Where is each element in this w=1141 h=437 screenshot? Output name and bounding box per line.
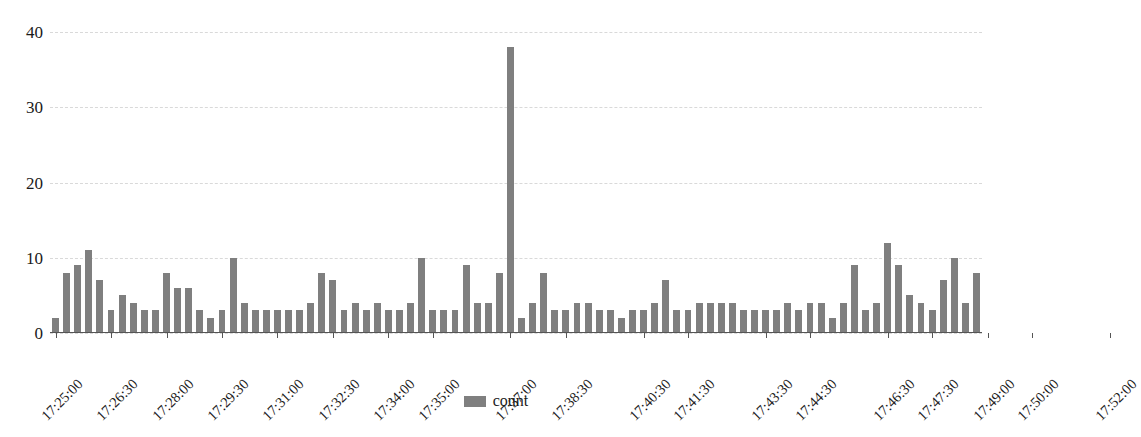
bar — [141, 310, 148, 333]
bar — [130, 303, 137, 333]
bar — [296, 310, 303, 333]
bar — [795, 310, 802, 333]
chart-legend: count — [0, 393, 992, 409]
x-tick-mark — [566, 333, 567, 338]
bar — [374, 303, 381, 333]
x-tick-label: 17:38:30 — [585, 340, 632, 387]
bar-series-count — [50, 32, 982, 333]
bar — [252, 310, 259, 333]
bar — [407, 303, 414, 333]
x-tick-mark — [988, 333, 989, 338]
x-tick-label: 17:28:00 — [186, 340, 233, 387]
x-tick-label: 17:26:30 — [130, 340, 177, 387]
bar — [685, 310, 692, 333]
bar — [651, 303, 658, 333]
y-tick-label: 10 — [26, 249, 43, 266]
x-tick-mark — [333, 333, 334, 338]
bar — [263, 310, 270, 333]
bar — [862, 310, 869, 333]
bar — [718, 303, 725, 333]
bar — [873, 303, 880, 333]
bar — [540, 273, 547, 333]
x-tick-mark — [510, 333, 511, 338]
bar — [906, 295, 913, 333]
x-tick-mark — [277, 333, 278, 338]
bar — [418, 258, 425, 333]
bar — [851, 265, 858, 333]
x-tick-mark — [222, 333, 223, 338]
bar — [929, 310, 936, 333]
x-tick-mark — [111, 333, 112, 338]
bar — [230, 258, 237, 333]
x-tick-label: 17:35:00 — [452, 340, 499, 387]
bar — [119, 295, 126, 333]
bar — [174, 288, 181, 333]
bar — [618, 318, 625, 333]
bar — [640, 310, 647, 333]
plot-area: 010203040 17:25:0017:26:3017:28:0017:29:… — [50, 32, 982, 333]
x-tick-label-text: 17:50:00 — [1015, 376, 1062, 423]
x-tick-label: 17:47:30 — [951, 340, 998, 387]
bar — [662, 280, 669, 333]
bar — [318, 273, 325, 333]
bar — [163, 273, 170, 333]
x-tick-mark — [433, 333, 434, 338]
bar — [185, 288, 192, 333]
x-tick-mark — [56, 333, 57, 338]
x-tick-mark — [888, 333, 889, 338]
bar — [274, 310, 281, 333]
bar — [818, 303, 825, 333]
bar — [951, 258, 958, 333]
bar — [396, 310, 403, 333]
bar — [673, 310, 680, 333]
x-tick-label: 17:52:00 — [1129, 340, 1141, 387]
bar — [807, 303, 814, 333]
bar — [740, 310, 747, 333]
bar — [63, 273, 70, 333]
bar — [518, 318, 525, 333]
bar — [829, 318, 836, 333]
bar — [108, 310, 115, 333]
x-tick-mark — [388, 333, 389, 338]
bar — [574, 303, 581, 333]
x-tick-mark — [688, 333, 689, 338]
bar — [729, 303, 736, 333]
x-axis-line — [50, 332, 982, 333]
x-tick-label: 17:31:00 — [297, 340, 344, 387]
bar — [884, 243, 891, 333]
bar — [585, 303, 592, 333]
bar — [241, 303, 248, 333]
bar — [629, 310, 636, 333]
bar — [385, 310, 392, 333]
x-tick-label: 17:29:30 — [241, 340, 288, 387]
x-tick-label: 17:44:30 — [829, 340, 876, 387]
bar — [219, 310, 226, 333]
bar — [452, 310, 459, 333]
bar — [607, 310, 614, 333]
bar — [940, 280, 947, 333]
bar — [529, 303, 536, 333]
x-tick-label: 17:41:30 — [707, 340, 754, 387]
y-tick-label: 0 — [35, 325, 44, 342]
x-tick-label: 17:32:30 — [352, 340, 399, 387]
bar — [363, 310, 370, 333]
bar — [840, 303, 847, 333]
bar — [307, 303, 314, 333]
x-tick-mark — [932, 333, 933, 338]
legend-label-count: count — [493, 393, 529, 409]
bar — [352, 303, 359, 333]
bar — [341, 310, 348, 333]
bar — [751, 310, 758, 333]
x-tick-label-text: 17:52:00 — [1092, 376, 1139, 423]
bar — [207, 318, 214, 333]
bar — [762, 310, 769, 333]
bar — [895, 265, 902, 333]
y-tick-label: 40 — [26, 24, 43, 41]
x-tick-mark — [1032, 333, 1033, 338]
bar — [507, 47, 514, 333]
bar — [707, 303, 714, 333]
bar — [474, 303, 481, 333]
x-tick-mark — [1110, 333, 1111, 338]
bar — [973, 273, 980, 333]
